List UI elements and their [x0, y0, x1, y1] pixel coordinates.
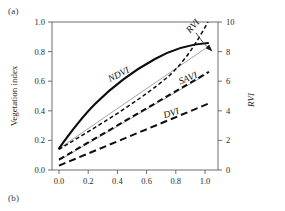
x-ticks: [59, 170, 205, 174]
y-right-tick-4: 8: [226, 47, 230, 57]
y-left-axis-title: Vegetation index: [9, 65, 19, 126]
y-left-ticks: [48, 22, 52, 170]
y-left-tick-1: 0.2: [34, 135, 45, 145]
x-tick-0: 0.0: [54, 176, 65, 186]
y-right-axis-title: RVI: [246, 92, 256, 108]
x-tick-4: 0.8: [170, 176, 181, 186]
y-left-tick-3: 0.6: [34, 76, 45, 86]
y-left-tick-4: 0.8: [34, 47, 45, 57]
curve-savi: [59, 72, 209, 160]
curve-ndvi: [59, 43, 208, 148]
label-rvi: RVI: [183, 17, 201, 36]
y-right-tick-1: 2: [226, 135, 230, 145]
y-right-ticks: [218, 22, 222, 170]
y-left-tick-5: 1.0: [34, 17, 45, 27]
y-right-tick-5: 10: [226, 17, 235, 27]
y-right-tick-3: 6: [226, 76, 230, 86]
figure-container: (a) (b) 0.0 0.2 0.4 0.6 0.8 1.0 0 2: [0, 0, 285, 211]
curve-dvi: [59, 103, 209, 165]
x-tick-1: 0.2: [83, 176, 94, 186]
reference-line-upper: [59, 49, 205, 149]
y-right-tick-0: 0: [226, 165, 230, 175]
x-tick-5: 1.0: [200, 176, 211, 186]
x-tick-3: 0.6: [141, 176, 152, 186]
vegetation-index-chart: 0.0 0.2 0.4 0.6 0.8 1.0 0 2 4 6 8 10: [0, 0, 285, 211]
label-ndvi: NDVI: [106, 64, 132, 84]
x-tick-2: 0.4: [112, 176, 123, 186]
label-savi: SAVI: [177, 70, 199, 87]
y-right-tick-2: 4: [226, 106, 231, 116]
y-left-tick-0: 0.0: [34, 165, 45, 175]
label-dvi: DVI: [161, 106, 181, 121]
y-left-tick-2: 0.4: [34, 106, 45, 116]
